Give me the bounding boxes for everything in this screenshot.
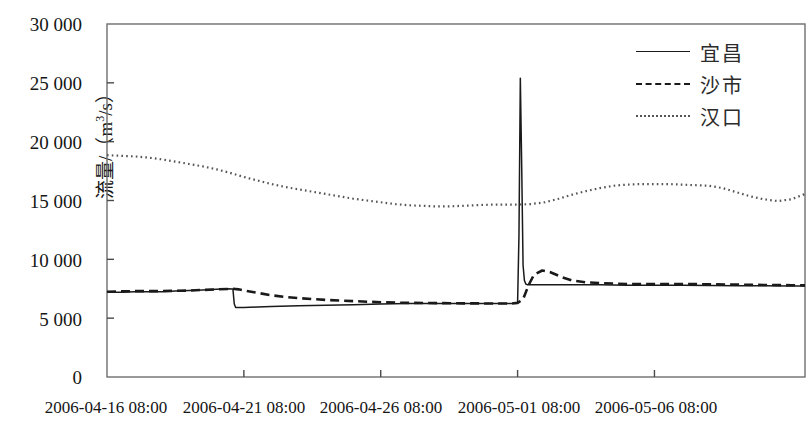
legend-item-hankou: 汉口 (636, 100, 796, 132)
series-line-hankou (107, 155, 805, 206)
legend-label-hankou: 汉口 (700, 102, 744, 131)
legend-item-yichang: 宜昌 (636, 36, 796, 68)
legend-line-solid-icon (636, 45, 690, 59)
flow-discharge-chart: 流量/（m3/s） 30 000 25 000 20 000 15 000 10… (0, 0, 812, 425)
series-line-shashi (107, 271, 805, 304)
legend-item-shashi: 沙市 (636, 68, 796, 100)
chart-legend: 宜昌 沙市 汉口 (636, 36, 796, 132)
legend-label-yichang: 宜昌 (700, 38, 744, 67)
legend-line-dashed-icon (636, 77, 690, 91)
legend-line-dotted-icon (636, 109, 690, 123)
legend-label-shashi: 沙市 (700, 70, 744, 99)
